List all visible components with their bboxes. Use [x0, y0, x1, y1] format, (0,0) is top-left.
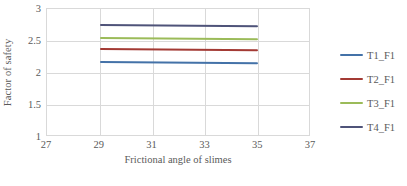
factor-of-safety-line-chart: Factor of safety 11.522.53 272931333537 …: [0, 0, 407, 186]
series-lines: [47, 9, 309, 135]
series-line-t4_f1: [100, 24, 258, 27]
x-tick-label: 31: [146, 139, 157, 150]
legend-item-label: T4_F1: [367, 122, 395, 133]
legend-item-t2_f1[interactable]: T2_F1: [340, 67, 407, 91]
x-tick-label: 29: [94, 139, 105, 150]
x-tick-label: 37: [305, 139, 316, 150]
legend-item-t4_f1[interactable]: T4_F1: [340, 115, 407, 139]
legend-item-t3_f1[interactable]: T3_F1: [340, 91, 407, 115]
legend-item-t1_f1[interactable]: T1_F1: [340, 43, 407, 67]
legend-line-swatch-icon: [340, 102, 363, 104]
chart-legend: T1_F1T2_F1T3_F1T4_F1: [340, 43, 407, 139]
legend-item-label: T2_F1: [367, 74, 395, 85]
y-tick-label: 3: [36, 3, 41, 14]
legend-line-swatch-icon: [340, 78, 363, 80]
x-axis-title: Frictional angle of slimes: [46, 154, 310, 165]
legend-item-label: T3_F1: [367, 98, 395, 109]
y-tick-label: 1.5: [28, 99, 41, 110]
series-line-t2_f1: [100, 48, 258, 51]
x-tick-label: 35: [252, 139, 263, 150]
legend-item-label: T1_F1: [367, 50, 395, 61]
x-axis-tick-labels: 272931333537: [46, 139, 310, 153]
series-line-t3_f1: [100, 37, 258, 40]
plot-area: [46, 8, 310, 136]
x-tick-label: 33: [199, 139, 210, 150]
y-axis-tick-labels: 11.522.53: [16, 8, 44, 136]
y-axis-title: Factor of safety: [0, 0, 16, 145]
legend-line-swatch-icon: [340, 126, 363, 128]
y-tick-label: 2: [36, 67, 41, 78]
x-tick-label: 27: [41, 139, 52, 150]
series-line-t1_f1: [100, 61, 258, 64]
y-tick-label: 2.5: [28, 35, 41, 46]
legend-line-swatch-icon: [340, 54, 363, 56]
y-axis-title-label: Factor of safety: [3, 39, 14, 107]
